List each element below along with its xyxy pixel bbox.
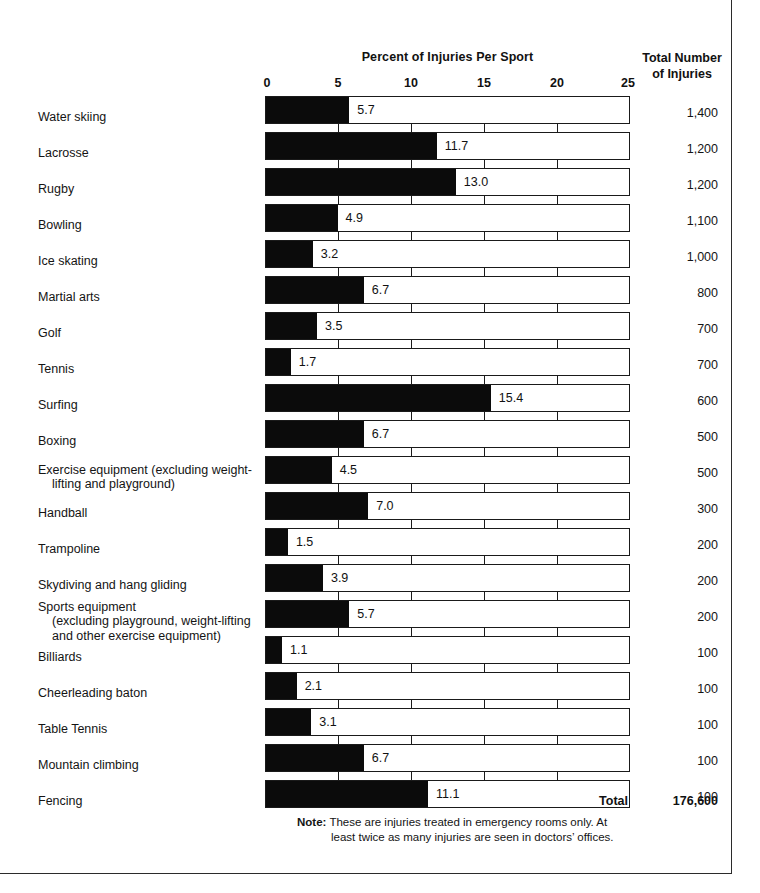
category-label: Golf xyxy=(38,326,262,341)
category-labels-column: Water skiingLacrosseRugbyBowlingIce skat… xyxy=(0,96,262,816)
bar-track: 6.7 xyxy=(265,276,630,304)
bar-fill xyxy=(266,673,297,699)
axis-tick-15 xyxy=(484,556,485,564)
bar-fill xyxy=(266,349,291,375)
bar-row: 2.1 xyxy=(265,672,630,706)
axis-tick-10 xyxy=(411,232,412,240)
axis-tick-15 xyxy=(484,124,485,132)
bar-track: 3.2 xyxy=(265,240,630,268)
category-label-line: (excluding playground, weight-lifting xyxy=(38,614,262,629)
axis-tick-5 xyxy=(338,592,339,600)
bar-fill xyxy=(266,565,323,591)
axis-tick-15 xyxy=(484,664,485,672)
category-label-row: Surfing xyxy=(0,384,262,420)
category-label: Cheerleading baton xyxy=(38,686,262,701)
category-label: Fencing xyxy=(38,794,262,809)
category-label: Mountain climbing xyxy=(38,758,262,773)
bar-value-label: 13.0 xyxy=(464,175,488,189)
axis-tick-5 xyxy=(338,736,339,744)
axis-tick-20 xyxy=(557,520,558,528)
axis-tick-20 xyxy=(557,232,558,240)
axis-tick-5 xyxy=(338,268,339,276)
total-row: 1,000 xyxy=(636,240,728,276)
total-row: 1,400 xyxy=(636,96,728,132)
bar-fill xyxy=(266,457,332,483)
category-label-line: Exercise equipment (excluding weight- xyxy=(38,463,252,477)
bar-value-label: 11.7 xyxy=(445,139,468,153)
category-label-line: Billiards xyxy=(38,650,82,664)
bar-track: 5.7 xyxy=(265,96,630,124)
category-label-row: Bowling xyxy=(0,204,262,240)
category-label-row: Water skiing xyxy=(0,96,262,132)
axis-gutter-ticks xyxy=(265,304,630,312)
axis-gutter-ticks xyxy=(265,628,630,636)
axis-gutter-ticks xyxy=(265,556,630,564)
bar-value-label: 3.5 xyxy=(325,319,342,333)
total-row: 100 xyxy=(636,708,728,744)
grand-total-label: Total xyxy=(520,794,628,808)
axis-tick-15 xyxy=(484,268,485,276)
category-label-row: Cheerleading baton xyxy=(0,672,262,708)
category-label: Skydiving and hang gliding xyxy=(38,578,262,593)
category-label-row: Fencing xyxy=(0,780,262,816)
axis-tick-label-25: 25 xyxy=(621,76,635,90)
axis-tick-5 xyxy=(338,340,339,348)
category-label-line: Trampoline xyxy=(38,542,100,556)
bar-value-label: 3.2 xyxy=(321,247,338,261)
bar-value-label: 1.7 xyxy=(299,355,316,369)
totals-column: 1,4001,2001,2001,1001,000800700700600500… xyxy=(636,96,728,816)
category-label-line: Cheerleading baton xyxy=(38,686,147,700)
axis-gutter-ticks xyxy=(265,124,630,132)
bar-fill xyxy=(266,169,456,195)
total-value: 100 xyxy=(636,718,718,732)
bar-fill xyxy=(266,493,368,519)
axis-tick-10 xyxy=(411,484,412,492)
axis-tick-20 xyxy=(557,592,558,600)
axis-gutter-ticks xyxy=(265,196,630,204)
category-label-line: Skydiving and hang gliding xyxy=(38,578,187,592)
total-row: 700 xyxy=(636,312,728,348)
axis-tick-10 xyxy=(411,700,412,708)
total-value: 500 xyxy=(636,430,718,444)
bar-track: 6.7 xyxy=(265,420,630,448)
axis-tick-15 xyxy=(484,628,485,636)
grand-total-value: 176,600 xyxy=(636,794,718,808)
axis-tick-10 xyxy=(411,124,412,132)
category-label-line: Ice skating xyxy=(38,254,98,268)
axis-gutter-ticks xyxy=(265,736,630,744)
category-label: Water skiing xyxy=(38,110,262,125)
category-label-row: Ice skating xyxy=(0,240,262,276)
axis-tick-10 xyxy=(411,196,412,204)
axis-tick-10 xyxy=(411,376,412,384)
total-value: 200 xyxy=(636,610,718,624)
total-value: 100 xyxy=(636,682,718,696)
axis-tick-15 xyxy=(484,448,485,456)
axis-gutter-ticks xyxy=(265,232,630,240)
axis-gutter-ticks xyxy=(265,700,630,708)
category-label-row: Sports equipment(excluding playground, w… xyxy=(0,600,262,636)
category-label: Handball xyxy=(38,506,262,521)
bar-track: 3.1 xyxy=(265,708,630,736)
bar-track: 3.5 xyxy=(265,312,630,340)
axis-tick-10 xyxy=(411,268,412,276)
axis-tick-5 xyxy=(338,304,339,312)
total-row: 600 xyxy=(636,384,728,420)
category-label-line: Rugby xyxy=(38,182,74,196)
category-label-row: Mountain climbing xyxy=(0,744,262,780)
bar-value-label: 15.4 xyxy=(499,391,523,405)
bar-track: 2.1 xyxy=(265,672,630,700)
bar-row: 6.7 xyxy=(265,744,630,778)
total-row: 500 xyxy=(636,456,728,492)
axis-tick-20 xyxy=(557,304,558,312)
axis-tick-10 xyxy=(411,556,412,564)
bar-track: 6.7 xyxy=(265,744,630,772)
bar-row: 3.5 xyxy=(265,312,630,346)
bar-fill xyxy=(266,385,491,411)
axis-tick-5 xyxy=(338,628,339,636)
bar-row: 3.2 xyxy=(265,240,630,274)
category-label: Exercise equipment (excluding weight-lif… xyxy=(38,463,262,492)
axis-tick-20 xyxy=(557,268,558,276)
axis-tick-15 xyxy=(484,160,485,168)
bar-track: 3.9 xyxy=(265,564,630,592)
total-row: 800 xyxy=(636,276,728,312)
